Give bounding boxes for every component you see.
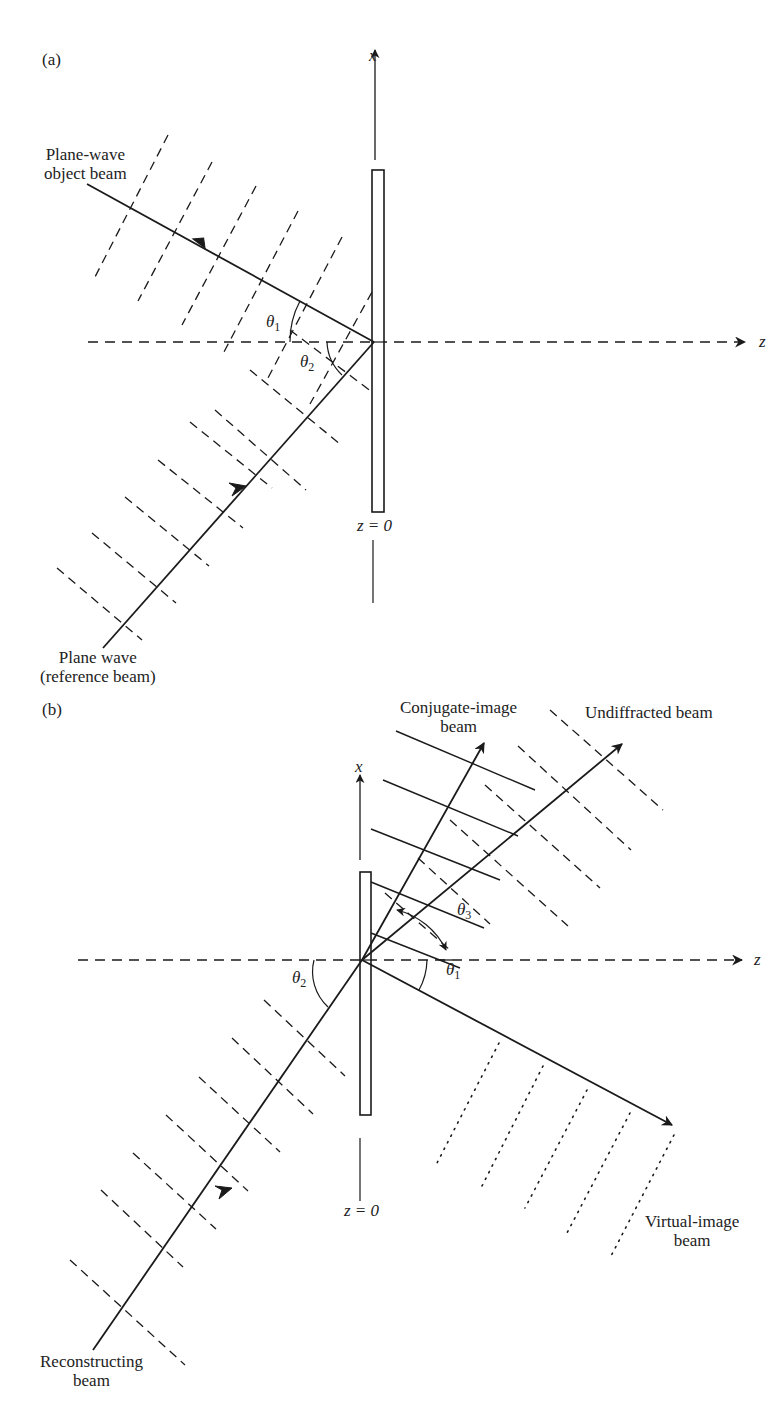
x-axis-label-a: x [369,46,377,65]
theta1-arc-b [419,960,427,990]
theta2-label-b: θ2 [292,968,306,993]
virtual-image-beam [362,960,672,1125]
panel-b-label: (b) [42,700,62,719]
theta2-label-a: θ2 [300,352,314,377]
virtual-beam-wavefronts [437,1043,674,1256]
theta1-label-b: θ1 [446,960,460,985]
z-axis-label-a: z [759,332,766,351]
theta1-arc-a [290,301,300,342]
panel-a [57,50,745,648]
virtual-beam-label: Virtual-image beam [645,1212,739,1250]
conjugate-beam-label: Conjugate-image beam [400,698,517,736]
hologram-plate-b [360,872,371,1115]
object-beam-label: Plane-wave object beam [44,145,127,183]
panel-b [70,710,742,1365]
panel-a-label: (a) [42,50,61,69]
undiffracted-beam-wavefronts [385,710,663,950]
reconstructing-beam-arrow-icon [215,1186,232,1199]
x-axis-label-b: x [355,757,363,776]
theta3-label-b: θ3 [457,900,471,925]
undiffracted-beam-label: Undiffracted beam [585,703,713,722]
z-axis-label-b: z [754,950,761,969]
theta1-label-a: θ1 [266,312,280,337]
theta3-arc-b [397,910,446,950]
theta2-arc-b [313,960,328,1007]
conjugate-image-beam [362,743,484,960]
reference-beam [103,342,374,648]
object-beam-wavefronts [95,135,372,404]
reference-beam-label: Plane wave (reference beam) [40,648,156,686]
object-beam [87,184,374,342]
reconstructing-beam [93,960,362,1350]
plate-label-a: z = 0 [357,516,392,535]
reconstructing-beam-label: Reconstructing beam [40,1352,143,1390]
plate-label-b: z = 0 [344,1201,379,1220]
undiffracted-beam [362,744,622,960]
